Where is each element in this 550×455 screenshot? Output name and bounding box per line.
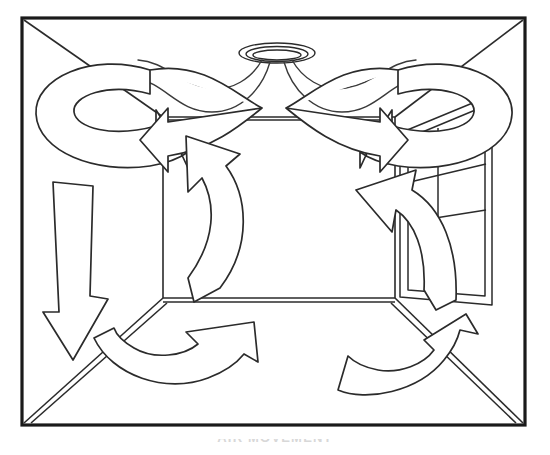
ceiling-air-diffuser (239, 43, 315, 63)
room-airflow-diagram (0, 0, 550, 455)
diffuser-inner-ring (253, 50, 301, 60)
figure-caption-text: AIR MOVEMENT (0, 439, 550, 443)
figure-caption: AIR MOVEMENT (0, 439, 550, 455)
room-airflow-figure: AIR MOVEMENT (0, 0, 550, 455)
